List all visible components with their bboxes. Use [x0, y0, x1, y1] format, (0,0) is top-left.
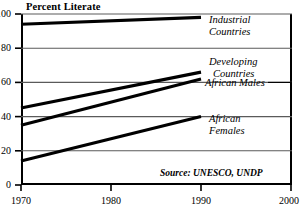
y-tick-label-60: 60 [0, 77, 11, 87]
y-tick-label-0: 0 [0, 180, 11, 190]
series-label-industrial-line1: Industrial [209, 14, 250, 26]
series-label-developing-countries: Developing Countries [209, 56, 257, 79]
literacy-line-chart: Percent Literate [0, 0, 303, 215]
series-label-industrial-line2: Countries [209, 26, 250, 38]
x-tick-label-1970: 1970 [1, 196, 41, 206]
y-tick-label-40: 40 [0, 112, 11, 122]
x-tick-label-2000: 2000 [269, 196, 303, 206]
y-tick-marks [15, 14, 21, 185]
plot-canvas [0, 0, 303, 215]
series-label-african-males: African Males [205, 77, 265, 89]
y-tick-label-20: 20 [0, 146, 11, 156]
series-label-african-males-line1: African Males [205, 77, 265, 89]
series-line-industrial-countries [21, 17, 201, 24]
series-line-african-females [21, 117, 201, 161]
series-label-industrial-countries: Industrial Countries [209, 14, 250, 37]
x-tick-marks [21, 185, 291, 191]
series-label-african-females-line1: African [209, 113, 245, 125]
series-label-developing-line1: Developing [209, 56, 257, 68]
source-note: Source: UNESCO, UNDP [160, 168, 263, 178]
y-tick-label-100: 100 [0, 9, 11, 19]
data-series [21, 17, 201, 161]
series-label-african-females: African Females [209, 113, 245, 136]
series-label-african-females-line2: Females [209, 125, 245, 137]
y-tick-label-80: 80 [0, 43, 11, 53]
x-tick-label-1990: 1990 [181, 196, 221, 206]
x-tick-label-1980: 1980 [91, 196, 131, 206]
